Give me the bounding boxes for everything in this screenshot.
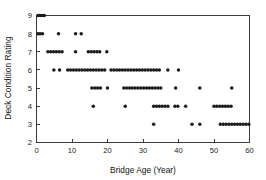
data-point	[60, 50, 64, 54]
data-point	[79, 32, 83, 36]
y-tick-label: 6	[28, 66, 32, 75]
data-point	[198, 123, 202, 127]
data-point	[98, 50, 102, 54]
data-point	[103, 68, 107, 72]
x-tick-label: 50	[210, 146, 218, 155]
data-point	[43, 14, 47, 18]
x-tick-label: 40	[174, 146, 182, 155]
data-point	[247, 123, 251, 127]
x-tick-label: 60	[245, 146, 253, 155]
data-point	[57, 32, 61, 36]
y-axis-tick-labels: 23456789	[28, 11, 32, 147]
data-point	[74, 32, 78, 36]
data-point	[174, 86, 178, 90]
data-point	[105, 50, 109, 54]
y-tick-label: 9	[28, 11, 32, 20]
data-point	[92, 104, 96, 108]
y-tick-label: 5	[28, 84, 32, 93]
y-axis-title: Deck Condition Rating	[3, 36, 13, 120]
x-tick-label: 30	[139, 146, 147, 155]
data-point	[229, 104, 233, 108]
data-point	[166, 68, 170, 72]
data-point	[158, 68, 162, 72]
x-axis-tick-labels: 0102030405060	[34, 146, 253, 155]
data-point	[58, 68, 62, 72]
y-tick-label: 7	[28, 48, 32, 57]
data-point	[52, 68, 56, 72]
data-point	[190, 123, 194, 127]
axis-frame	[37, 16, 250, 143]
data-point	[106, 86, 110, 90]
y-tick-label: 2	[28, 138, 32, 147]
data-point	[177, 68, 181, 72]
y-tick-label: 8	[28, 30, 32, 39]
data-point	[198, 86, 202, 90]
data-point	[152, 123, 156, 127]
data-point-markers	[36, 14, 250, 126]
data-point	[184, 104, 188, 108]
y-tick-label: 3	[28, 120, 32, 129]
x-axis-title: Bridge Age (Year)	[110, 165, 176, 175]
x-tick-label: 20	[103, 146, 111, 155]
data-point	[159, 86, 163, 90]
data-point	[230, 86, 234, 90]
data-point	[176, 104, 180, 108]
data-point	[99, 86, 103, 90]
data-point	[41, 32, 45, 36]
scatter-plot-svg: 0102030405060 23456789 Bridge Age (Year)…	[0, 0, 266, 180]
data-point	[166, 104, 170, 108]
data-point	[74, 50, 78, 54]
y-tick-label: 4	[28, 102, 32, 111]
data-point	[124, 104, 128, 108]
x-tick-label: 10	[68, 146, 76, 155]
scatter-chart-figure: 0102030405060 23456789 Bridge Age (Year)…	[0, 0, 266, 180]
x-tick-label: 0	[34, 146, 38, 155]
